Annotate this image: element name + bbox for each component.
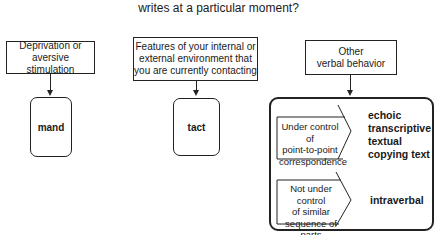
- point-to-point-results: echoic transcriptive textual copying tex…: [368, 109, 431, 161]
- label-line: Under control of: [279, 121, 341, 144]
- label-line: Not under control: [277, 183, 345, 206]
- arrow-down-icon: [347, 90, 353, 96]
- diagram-title: writes at a particular moment?: [0, 1, 437, 15]
- copying-text-label: copying text: [368, 148, 431, 161]
- environment-line-2: external environment that: [139, 53, 252, 65]
- deprivation-line-1: Deprivation or: [19, 40, 81, 52]
- connector-line: [50, 74, 51, 91]
- deprivation-box: Deprivation or aversive stimulation: [6, 41, 95, 74]
- mand-box: mand: [30, 97, 72, 157]
- label-line: sequence of parts: [277, 218, 345, 236]
- other-verbal-line-1: Other: [338, 46, 363, 58]
- arrow-down-icon: [193, 90, 199, 96]
- mand-label: mand: [38, 122, 65, 133]
- echoic-label: echoic: [368, 109, 431, 122]
- intraverbal-label: intraverbal: [370, 194, 424, 207]
- environment-line-1: Features of your internal or: [135, 41, 255, 53]
- transcriptive-label: transcriptive: [368, 122, 431, 135]
- deprivation-line-2: aversive stimulation: [7, 52, 94, 76]
- other-verbal-box: Other verbal behavior: [305, 40, 397, 75]
- environment-box: Features of your internal or external en…: [133, 37, 258, 81]
- tact-box: tact: [173, 98, 220, 156]
- not-point-to-point-label: Not under control of similar sequence of…: [277, 183, 345, 235]
- textual-label: textual: [368, 135, 431, 148]
- environment-line-3: you are currently contacting: [134, 65, 257, 77]
- connector-line: [350, 75, 351, 91]
- label-line: of similar: [277, 206, 345, 218]
- label-line: point-to-point: [279, 144, 341, 156]
- label-line: correspondence: [279, 156, 341, 168]
- arrow-down-icon: [47, 90, 53, 96]
- tact-label: tact: [188, 122, 206, 133]
- other-verbal-line-2: verbal behavior: [317, 58, 385, 70]
- point-to-point-label: Under control of point-to-point correspo…: [279, 121, 341, 167]
